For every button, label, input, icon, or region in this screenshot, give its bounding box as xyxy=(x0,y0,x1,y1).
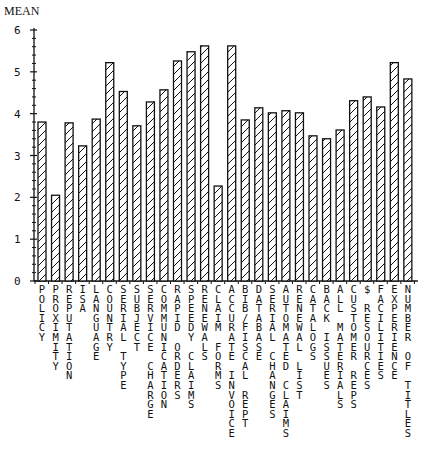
x-tick-label: RENEWALS xyxy=(201,283,208,362)
y-tick-label: 3 xyxy=(14,150,21,163)
x-tick-label: REPUTATION xyxy=(66,283,73,381)
bar xyxy=(119,91,127,281)
x-tick-label: PROXIMITY xyxy=(52,283,59,372)
x-tick-label: LANGUAGE xyxy=(93,283,100,362)
x-tick-label: BACK ISSUES xyxy=(323,283,330,391)
x-tick-label: NUMBER OF TITLES xyxy=(405,283,412,439)
bar xyxy=(363,97,371,281)
bar xyxy=(336,130,344,281)
bar xyxy=(214,186,222,281)
bar xyxy=(174,61,182,281)
x-tick-label: RENEWAL LIST xyxy=(296,283,303,401)
bar xyxy=(309,136,317,281)
x-tick-label: SERIAL CHANGES xyxy=(269,283,276,420)
x-tick-label: FACILITIES xyxy=(378,283,385,381)
bar xyxy=(201,46,209,281)
bar xyxy=(146,102,154,281)
x-tick-label: $ RESOURCES xyxy=(364,283,371,391)
bar xyxy=(404,79,412,281)
bar xyxy=(323,139,331,281)
bar xyxy=(268,113,276,281)
x-tick-label: CATALOGS xyxy=(310,283,317,362)
bar xyxy=(106,63,114,281)
bar xyxy=(38,122,46,281)
bar-chart: MEAN 0123456 POLICYPROXIMITYREPUTATIONIS… xyxy=(0,0,430,466)
x-tick-label: ACCURATE INVOICE xyxy=(229,283,236,439)
y-tick-label: 4 xyxy=(14,108,21,121)
bar xyxy=(228,46,236,281)
bar xyxy=(282,111,290,281)
bar xyxy=(160,90,168,281)
x-tick-label: DATABASE xyxy=(256,283,263,362)
x-tick-label: COMMUNICATION xyxy=(161,283,168,410)
bars xyxy=(38,46,412,281)
bar xyxy=(390,63,398,281)
x-tick-label: ISA xyxy=(79,283,86,314)
x-tick-label: SUBJECT xyxy=(134,283,141,353)
y-axis-title: MEAN xyxy=(4,4,40,18)
x-tick-label: SERVICE CHARGE xyxy=(147,283,154,420)
bar xyxy=(241,120,249,281)
x-tick-label: RAPID ORDERS xyxy=(174,283,181,401)
bar xyxy=(350,101,358,281)
bar xyxy=(92,119,100,281)
y-tick-label: 2 xyxy=(14,191,21,204)
x-tick-label: ALL MATERIALS xyxy=(337,283,344,410)
bar xyxy=(79,146,87,281)
x-tick-label: CLAIM FORMS xyxy=(215,283,222,391)
bar xyxy=(377,107,385,281)
x-tick-label: SERIAL TYPE xyxy=(120,283,127,391)
y-tick-label: 1 xyxy=(14,233,21,246)
bar xyxy=(295,113,303,281)
y-tick-label: 5 xyxy=(14,66,21,79)
bar xyxy=(187,52,195,281)
bar xyxy=(133,126,141,281)
category-labels: POLICYPROXIMITYREPUTATIONISALANGUAGECOUN… xyxy=(39,283,412,439)
x-tick-label: BIB/FISCAL REPT xyxy=(242,283,249,429)
x-tick-label: SPEEDY CLAIMS xyxy=(188,283,195,410)
bar xyxy=(255,108,263,281)
x-tick-label: CUSTOMER REPS xyxy=(350,283,357,410)
bar xyxy=(65,123,73,281)
x-tick-label: COUNTRY xyxy=(107,283,114,353)
bar xyxy=(52,195,60,281)
y-tick-label: 0 xyxy=(14,275,21,288)
x-tick-label: POLICY xyxy=(39,283,46,343)
x-tick-label: AUTOMATED CLAIMS xyxy=(283,283,290,439)
x-tick-label: EXPERIENCE xyxy=(391,283,398,381)
y-tick-label: 6 xyxy=(14,24,21,37)
